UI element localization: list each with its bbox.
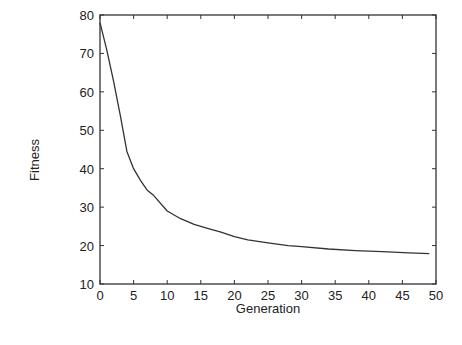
axis-tick-labels: 051015202530354045501020304050607080 [80,8,444,303]
fitness-series-line [100,23,429,254]
y-tick-label: 40 [80,162,94,177]
x-axis-label: Generation [236,301,300,316]
x-tick-label: 50 [429,288,443,303]
y-tick-label: 80 [80,8,94,23]
svg-text:Fitness: Fitness [27,139,42,181]
y-tick-label: 60 [80,85,94,100]
x-tick-label: 30 [294,288,308,303]
x-tick-label: 40 [362,288,376,303]
y-tick-label: 50 [80,123,94,138]
x-tick-label: 25 [261,288,275,303]
x-tick-label: 45 [395,288,409,303]
y-tick-label: 10 [80,277,94,292]
y-tick-label: 30 [80,200,94,215]
y-tick-label: 70 [80,46,94,61]
x-tick-label: 0 [96,288,103,303]
x-tick-label: 15 [194,288,208,303]
line-chart: Fitness Generation 051015202530354045501… [0,0,462,345]
plot-frame [100,15,436,284]
y-axis-label: Fitness [27,139,42,181]
axis-ticks [100,15,436,284]
x-tick-label: 5 [130,288,137,303]
x-tick-label: 20 [227,288,241,303]
x-tick-label: 10 [160,288,174,303]
x-tick-label: 35 [328,288,342,303]
y-tick-label: 20 [80,239,94,254]
